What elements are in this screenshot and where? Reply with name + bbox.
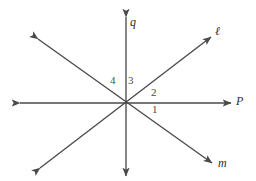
angle-label-1: 1 (152, 104, 158, 115)
angle-label-2: 2 (151, 87, 157, 98)
line-label-l: ℓ (215, 25, 220, 37)
line-label-P: P (236, 95, 243, 107)
angle-label-3: 3 (128, 75, 134, 86)
geometry-figure: q P ℓ m 1 2 3 4 (0, 0, 256, 181)
angle-label-4: 4 (110, 75, 116, 86)
line-m (38, 39, 212, 163)
line-label-m: m (218, 157, 227, 169)
line-label-q: q (130, 16, 136, 28)
